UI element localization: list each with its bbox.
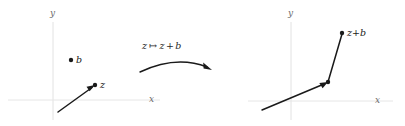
- point-z-marker: [93, 83, 97, 87]
- source-y-axis-label: y: [50, 9, 55, 18]
- translation-diagram: y x b z z↦z+b: [0, 0, 405, 126]
- target-plane-panel: y x z+b: [203, 0, 405, 126]
- point-z-plus-b-marker: [340, 31, 344, 35]
- point-b-marker: [69, 58, 73, 62]
- point-b-label: b: [76, 55, 82, 65]
- segment-b-line: [328, 34, 342, 82]
- point-z-label: z: [100, 80, 105, 90]
- source-plane-panel: y x b z: [0, 0, 202, 126]
- target-x-axis-label: x: [375, 96, 380, 105]
- source-plane-graphics: [0, 0, 202, 126]
- target-plane-graphics: [203, 0, 405, 126]
- vector-z-translated-shaft: [262, 84, 324, 110]
- target-y-axis-label: y: [288, 9, 293, 18]
- sum-label-b: b: [360, 27, 366, 38]
- point-z-plus-b-label: z+b: [347, 28, 366, 38]
- sum-label-plus: +: [352, 27, 360, 38]
- source-x-axis-label: x: [149, 95, 154, 104]
